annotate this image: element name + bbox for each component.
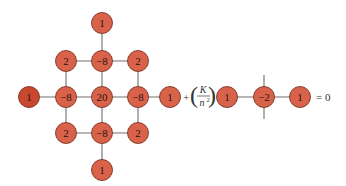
svg-text:1: 1 (99, 164, 105, 176)
svg-text:): ) (208, 82, 216, 108)
node-top: 1 (92, 13, 113, 34)
node-r3c1: 2 (56, 123, 77, 144)
node-r3c2: −8 (92, 123, 113, 144)
svg-text:20: 20 (97, 91, 109, 103)
svg-text:2: 2 (63, 127, 69, 139)
node-right-c: 1 (290, 87, 311, 108)
node-r2c1: −8 (56, 87, 77, 108)
svg-text:n: n (200, 97, 205, 108)
node-right: 1 (160, 87, 181, 108)
node-r1c2: −8 (92, 51, 113, 72)
svg-text:2: 2 (135, 127, 141, 139)
node-r1c1: 2 (56, 51, 77, 72)
svg-text:−8: −8 (96, 127, 108, 139)
svg-text:2: 2 (135, 55, 141, 67)
svg-text:2: 2 (63, 55, 69, 67)
svg-text:K: K (199, 84, 208, 95)
svg-text:−8: −8 (96, 55, 108, 67)
node-right-a: 1 (217, 87, 238, 108)
node-r1c3: 2 (128, 51, 149, 72)
operator-term: + ( K n 2 ) (183, 82, 216, 108)
svg-text:(: ( (190, 82, 198, 108)
node-r2c3: −8 (128, 87, 149, 108)
node-right-b: −2 (254, 87, 275, 108)
svg-text:1: 1 (297, 91, 303, 103)
node-bottom: 1 (92, 160, 113, 181)
svg-text:1: 1 (26, 91, 32, 103)
svg-text:1: 1 (167, 91, 173, 103)
node-center: 20 (92, 87, 113, 108)
node-r3c3: 2 (128, 123, 149, 144)
svg-text:1: 1 (99, 17, 105, 29)
svg-text:−2: −2 (258, 91, 270, 103)
svg-text:+: + (183, 91, 189, 103)
svg-text:−8: −8 (60, 91, 72, 103)
equals-zero: = 0 (316, 91, 331, 103)
node-left: 1 (19, 87, 40, 108)
svg-text:1: 1 (224, 91, 230, 103)
svg-text:−8: −8 (132, 91, 144, 103)
stencil-equation-diagram: 1 2 −8 2 1 −8 20 −8 1 2 −8 2 (0, 0, 346, 186)
